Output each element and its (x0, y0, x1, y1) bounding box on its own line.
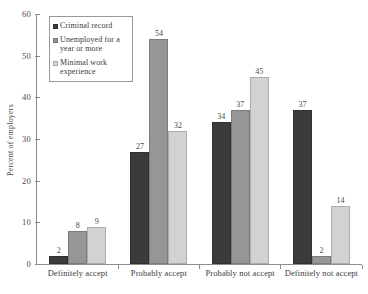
bar-group-bars: 37214 (281, 14, 362, 264)
y-axis-tick-label: 0 (27, 259, 31, 269)
bar-value-label: 9 (95, 217, 99, 226)
bar[interactable] (250, 77, 269, 265)
bar-slot: 32 (168, 14, 187, 264)
bar[interactable] (130, 152, 149, 265)
legend-swatch-icon (53, 61, 58, 66)
x-axis-category-label: Probably accept (118, 268, 199, 278)
bar-slot: 37 (231, 14, 250, 264)
y-axis-tick-label: 60 (22, 9, 31, 19)
bar[interactable] (149, 39, 168, 264)
legend-item-label: Minimal work experience (60, 58, 128, 77)
bar-slot: 37 (293, 14, 312, 264)
bar-slot: 45 (250, 14, 269, 264)
bar-value-label: 2 (319, 246, 323, 255)
y-axis-tick-label: 30 (22, 134, 31, 144)
legend-item[interactable]: Minimal work experience (53, 58, 128, 77)
bar-slot: 14 (331, 14, 350, 264)
bar-group: 37214Definitely not accept (281, 14, 362, 265)
bar-value-label: 37 (236, 100, 244, 109)
bar-value-label: 14 (336, 196, 344, 205)
bar-value-label: 54 (155, 29, 163, 38)
bar[interactable] (49, 256, 68, 264)
y-axis-title: Percent of employers (6, 104, 15, 176)
y-axis-tick-label: 50 (22, 51, 31, 61)
y-axis-tick-label: 40 (22, 92, 31, 102)
bar[interactable] (312, 256, 331, 264)
bar-group-bars: 343745 (200, 14, 281, 264)
y-axis-tick-label: 10 (22, 217, 31, 227)
bar[interactable] (168, 131, 187, 264)
bar[interactable] (68, 231, 87, 264)
bar-slot: 54 (149, 14, 168, 264)
x-axis-category-label: Probably not accept (200, 268, 281, 278)
x-axis-category-label: Definitely not accept (281, 268, 362, 278)
legend-swatch-icon (53, 38, 58, 43)
y-axis-tick-label: 20 (22, 176, 31, 186)
legend-item[interactable]: Criminal record (53, 21, 128, 31)
bar-slot: 27 (130, 14, 149, 264)
bar-slot: 2 (312, 14, 331, 264)
bar[interactable] (231, 110, 250, 264)
legend-swatch-icon (53, 24, 58, 29)
bar-value-label: 34 (217, 112, 225, 121)
bar[interactable] (331, 206, 350, 264)
bar-value-label: 8 (76, 221, 80, 230)
bar-value-label: 32 (174, 121, 182, 130)
bar-slot: 34 (212, 14, 231, 264)
bar-chart: 0102030405060 Percent of employers 289De… (0, 0, 368, 294)
legend-item-label: Unemployed for a year or more (60, 35, 128, 54)
x-axis-category-label: Definitely accept (37, 268, 118, 278)
bar[interactable] (293, 110, 312, 264)
bar-group: 343745Probably not accept (200, 14, 281, 265)
bar-value-label: 45 (255, 67, 263, 76)
bar[interactable] (212, 122, 231, 264)
bar-value-label: 37 (298, 100, 306, 109)
legend-item-label: Criminal record (60, 21, 112, 31)
bar-value-label: 2 (57, 246, 61, 255)
bar-value-label: 27 (136, 142, 144, 151)
legend-item[interactable]: Unemployed for a year or more (53, 35, 128, 54)
bar[interactable] (87, 227, 106, 265)
chart-legend: Criminal recordUnemployed for a year or … (49, 16, 133, 82)
